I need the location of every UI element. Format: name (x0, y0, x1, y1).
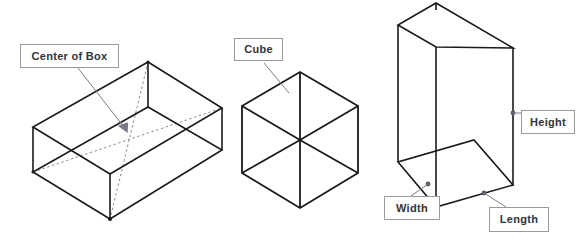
center-of-box-arrowhead (118, 122, 132, 135)
callout-height: Height (521, 110, 575, 134)
tall-box-vertical-edges (398, 3, 513, 207)
callout-width: Width (384, 196, 440, 220)
vertex-dot-top-back (146, 60, 149, 63)
callout-length: Length (489, 207, 549, 232)
open-box-shape (32, 60, 223, 221)
cube-interior-edges (242, 72, 358, 208)
callout-center-of-box: Center of Box (20, 44, 119, 68)
cube-leader-line (264, 63, 289, 93)
callout-cube: Cube (234, 38, 283, 61)
cube-shape (242, 63, 358, 208)
diagonal-hidden-b (110, 62, 148, 219)
open-box-center-diagonals (33, 62, 222, 219)
diagonal-hidden-a (33, 108, 222, 172)
open-box-vertical-edges (33, 62, 222, 219)
diagram-root: Center of Box Cube Height Width Length (0, 0, 584, 250)
cube-edge-to-right (300, 106, 358, 140)
tall-box-shape (398, 3, 521, 207)
cube-edge-to-left (242, 106, 300, 140)
length-leader-line (484, 193, 506, 207)
vertex-dot-bottom-left (32, 171, 35, 174)
cube-edge-to-lower-right (300, 140, 358, 173)
cube-edge-to-lower-left (242, 140, 300, 173)
tall-box-top-rim (398, 3, 513, 48)
vertex-dot-bottom-front (108, 217, 112, 221)
